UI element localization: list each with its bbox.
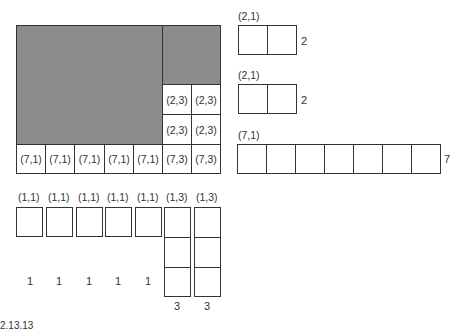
cell-7-1: (7,1)	[16, 144, 46, 174]
block-label: (7,1)	[238, 129, 260, 141]
block-label: (1,3)	[166, 191, 188, 203]
unit-cell	[135, 207, 162, 237]
block-label: (2,1)	[238, 69, 260, 81]
count-label: 1	[56, 275, 62, 287]
block-cell	[267, 84, 297, 114]
column-cell	[164, 207, 191, 238]
count-label: 1	[86, 275, 92, 287]
block-label: (1,1)	[48, 191, 70, 203]
unit-cell	[76, 207, 103, 237]
block-cell	[237, 144, 267, 174]
count-label: 1	[27, 275, 33, 287]
count-label: 3	[174, 300, 180, 312]
cell-2-3: (2,3)	[191, 84, 221, 115]
block-cell	[382, 144, 412, 174]
block-count: 2	[301, 94, 307, 106]
figure-caption-fragment: 2.13.13	[0, 320, 33, 331]
block-label: (1,1)	[137, 191, 159, 203]
column-cell	[164, 267, 191, 297]
count-label: 1	[145, 275, 151, 287]
block-cell	[266, 144, 296, 174]
block-cell	[267, 25, 297, 55]
block-label: (1,1)	[18, 191, 40, 203]
unit-cell	[105, 207, 132, 237]
column-cell	[194, 267, 221, 297]
main-grid: (2,3) (2,3) (2,3) (2,3) (7,1) (7,1) (7,1…	[16, 25, 221, 174]
cell-7-1: (7,1)	[45, 144, 75, 174]
block-cell	[411, 144, 441, 174]
block-label: (1,1)	[107, 191, 129, 203]
block-count: 7	[444, 153, 450, 165]
block-cell	[324, 144, 354, 174]
unit-cell	[16, 207, 43, 237]
block-label: (2,1)	[238, 10, 260, 22]
block-cell	[353, 144, 383, 174]
block-cell	[238, 25, 268, 55]
cell-7-1: (7,1)	[133, 144, 163, 174]
cell-2-3: (2,3)	[191, 114, 221, 145]
column-cell	[164, 237, 191, 268]
cell-2-3: (2,3)	[162, 114, 192, 145]
cell-7-3: (7,3)	[162, 144, 192, 174]
block-label: (1,1)	[78, 191, 100, 203]
block-cell	[295, 144, 325, 174]
block-count: 2	[301, 35, 307, 47]
grid-divider-vertical	[162, 25, 163, 85]
count-label: 3	[204, 300, 210, 312]
cell-2-3: (2,3)	[162, 84, 192, 115]
cell-7-1: (7,1)	[74, 144, 105, 174]
column-cell	[194, 207, 221, 238]
count-label: 1	[115, 275, 121, 287]
block-label: (1,3)	[196, 191, 218, 203]
block-cell	[238, 84, 268, 114]
column-cell	[194, 237, 221, 268]
cell-7-3: (7,3)	[191, 144, 221, 174]
unit-cell	[46, 207, 73, 237]
cell-7-1: (7,1)	[104, 144, 134, 174]
